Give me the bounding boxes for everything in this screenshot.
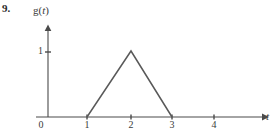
x-axis-arrowhead <box>262 114 269 121</box>
plot-canvas <box>0 0 278 137</box>
function-curve-g <box>87 51 172 117</box>
figure-container: 9. g(t) t 1 0 1 2 3 4 <box>0 0 278 137</box>
y-axis-arrowhead <box>45 25 52 32</box>
